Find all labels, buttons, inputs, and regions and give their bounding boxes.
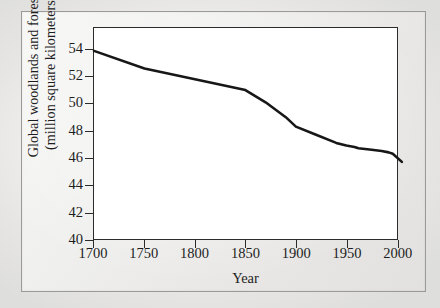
data-series-line [94,51,402,162]
y-tick-label-50: 50 [57,95,83,110]
chart-container: Global woodlands and forests (million sq… [0,0,440,308]
y-tick-label-42: 42 [57,205,83,220]
x-axis-title: Year [93,270,398,287]
y-tick-label-54: 54 [57,41,83,56]
plot-area [93,27,398,240]
y-tick-label-52: 52 [57,68,83,83]
data-line-svg [94,28,397,239]
figure-canvas: Global woodlands and forests (million sq… [0,0,440,308]
y-axis-title-line-1: Global woodlands and forests [25,0,42,178]
y-tick-label-48: 48 [57,123,83,138]
y-tick-label-44: 44 [57,177,83,192]
y-tick-label-46: 46 [57,150,83,165]
x-tick-label-2000: 2000 [368,246,428,262]
y-axis-title: Global woodlands and forests (million sq… [25,0,59,178]
